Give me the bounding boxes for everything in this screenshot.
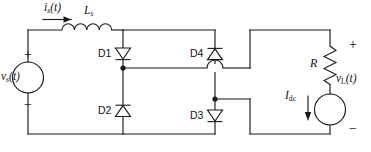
- inductor-ls: [62, 24, 112, 30]
- label-resistor-r: R: [310, 57, 317, 69]
- label-load-voltage: vL(t): [336, 73, 357, 85]
- label-source-inductor: Ls: [84, 5, 93, 17]
- diode-d1: [116, 30, 131, 68]
- label-dc-current-source: Idc: [285, 90, 296, 102]
- wire-dc-negative-rail: [215, 99, 330, 134]
- current-source-idc: [315, 94, 346, 125]
- resistor-r: [324, 46, 336, 85]
- current-arrow-is: [43, 16, 71, 22]
- label-source-minus: −: [24, 98, 32, 112]
- current-arrow-idc: [305, 96, 311, 121]
- label-diode-d4: D4: [190, 48, 203, 59]
- diode-d4: [208, 30, 223, 99]
- label-diode-d1: D1: [98, 48, 111, 59]
- label-diode-d3: D3: [190, 110, 203, 121]
- label-load-plus: +: [349, 38, 357, 52]
- circuit-diagram: is(t) Ls + vs(t) − D1 D2 D4 D3 + R vL(t)…: [0, 0, 371, 152]
- schematic-canvas: [0, 0, 371, 152]
- label-source-current: is(t): [44, 2, 61, 14]
- wire-dc-positive-rail: [123, 30, 330, 68]
- diode-d2: [116, 105, 131, 134]
- label-load-minus: −: [349, 122, 357, 136]
- label-source-voltage: vs(t): [1, 71, 20, 83]
- label-diode-d2: D2: [98, 105, 111, 116]
- label-source-plus: +: [24, 48, 32, 62]
- diode-d3: [208, 99, 223, 134]
